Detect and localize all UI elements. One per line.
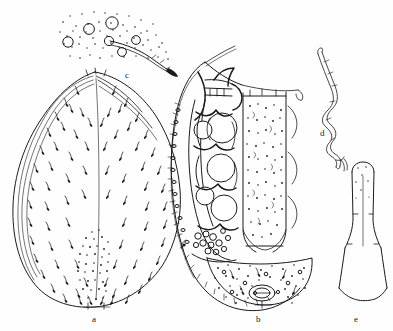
panel-b-vesicle-cluster [193, 229, 230, 255]
plate-artwork: .ln{fill:none;stroke:#1a1a1a;stroke-line… [0, 0, 393, 331]
figure-label-a: a [92, 314, 96, 324]
panel-d-figure [318, 48, 344, 169]
panel-c-pores [63, 17, 141, 57]
panel-b-column-marks [253, 112, 274, 224]
panel-c-stipple [59, 11, 169, 60]
panel-a-stipple-patch [77, 229, 110, 300]
figure-label-e: e [354, 314, 358, 324]
panel-b-figure [168, 46, 312, 311]
figure-label-b: b [256, 314, 261, 324]
panel-b-lateral-arcs [288, 106, 297, 228]
panel-e-figure [339, 159, 387, 301]
illustration-plate: .ln{fill:none;stroke:#1a1a1a;stroke-line… [0, 0, 393, 331]
panel-c-figure [59, 11, 178, 77]
panel-a-setae-right [100, 86, 167, 305]
panel-a-setae [28, 86, 92, 305]
panel-a-figure [13, 68, 180, 309]
figure-label-d: d [320, 128, 325, 138]
figure-label-c: c [125, 70, 129, 80]
panel-e-apex-texture [355, 166, 369, 198]
panel-b-ova [194, 113, 237, 221]
panel-b-column-stipple [246, 103, 283, 238]
panel-b-plate-rings [222, 270, 302, 294]
